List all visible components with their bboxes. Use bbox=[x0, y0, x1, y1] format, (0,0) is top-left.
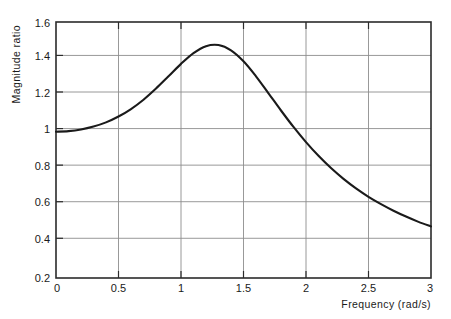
x-tick-label-1: 1 bbox=[178, 282, 184, 294]
y-tick-label-0.8: 0.8 bbox=[35, 160, 50, 172]
x-tick-label-1.5: 1.5 bbox=[236, 282, 251, 294]
y-tick-label-1: 1 bbox=[44, 123, 50, 135]
chart-svg: 1.6 1.4 1.2 1 0.8 0.6 0.4 0.2 0 0.5 1 1.… bbox=[0, 0, 451, 319]
y-tick-label-0.6: 0.6 bbox=[35, 196, 50, 208]
y-tick-label-1.6: 1.6 bbox=[35, 17, 50, 29]
y-tick-label-1.2: 1.2 bbox=[35, 87, 50, 99]
x-tick-labels: 0 0.5 1 1.5 2 2.5 3 bbox=[54, 282, 433, 294]
y-tick-label-0.2: 0.2 bbox=[35, 272, 50, 284]
x-tick-label-2: 2 bbox=[303, 282, 309, 294]
y-axis-title: Magnitude ratio bbox=[10, 25, 22, 103]
x-tick-label-0.5: 0.5 bbox=[111, 282, 126, 294]
x-tick-label-0: 0 bbox=[54, 282, 60, 294]
y-tick-label-1.4: 1.4 bbox=[35, 50, 50, 62]
x-axis-title: Frequency (rad/s) bbox=[341, 298, 431, 310]
magnitude-ratio-chart-figure: 1.6 1.4 1.2 1 0.8 0.6 0.4 0.2 0 0.5 1 1.… bbox=[0, 0, 451, 319]
x-tick-label-3: 3 bbox=[427, 282, 433, 294]
y-tick-label-0.4: 0.4 bbox=[35, 233, 50, 245]
y-tick-labels: 1.6 1.4 1.2 1 0.8 0.6 0.4 0.2 bbox=[35, 17, 50, 284]
x-tick-label-2.5: 2.5 bbox=[361, 282, 376, 294]
